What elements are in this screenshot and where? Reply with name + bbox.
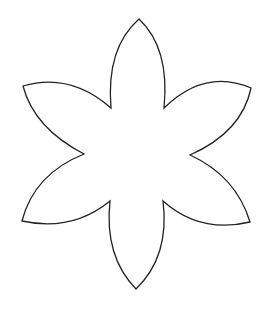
flower-outline [0,0,269,313]
flower-canvas: Six-petal flower outline [0,0,269,313]
